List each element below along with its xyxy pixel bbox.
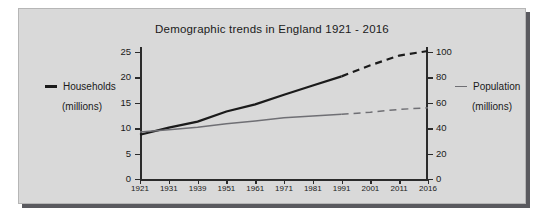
legend-population-label: Population	[473, 81, 520, 92]
y-tick-label-right: 0	[436, 173, 441, 184]
y-tick-right	[428, 103, 433, 104]
x-tick-label: 2001	[361, 184, 379, 193]
y-tick-label-right: 100	[436, 46, 452, 57]
x-tick-label: 1971	[275, 184, 293, 193]
y-tick-label-left: 10	[120, 122, 131, 133]
y-tick-label-right: 20	[436, 148, 447, 159]
y-tick-right	[428, 52, 433, 53]
households-line-dashed	[342, 51, 428, 76]
population-line-swatch-icon	[455, 86, 467, 88]
legend-population-units: (millions)	[472, 101, 546, 112]
y-tick-label-left: 15	[120, 97, 131, 108]
households-line-swatch-icon	[45, 85, 57, 87]
x-tick-label: 2011	[391, 184, 408, 193]
series-lines	[140, 52, 428, 179]
x-tick-label: 1991	[333, 184, 351, 193]
households-line-solid	[140, 76, 342, 134]
chart-panel: Demographic trends in England 1921 - 201…	[18, 8, 526, 204]
x-tick-label: 1961	[246, 184, 264, 193]
x-tick-label: 1939	[189, 184, 207, 193]
legend-population: Population (millions)	[455, 81, 546, 112]
population-line-solid	[140, 114, 342, 132]
legend-households-label: Households	[63, 81, 116, 92]
population-line-dashed	[342, 108, 428, 114]
x-tick-label: 1931	[160, 184, 178, 193]
chart-figure: Demographic trends in England 1921 - 201…	[0, 0, 546, 220]
chart-title: Demographic trends in England 1921 - 201…	[19, 23, 525, 35]
y-tick-right	[428, 154, 433, 155]
x-tick-label: 1981	[304, 184, 322, 193]
y-tick-label-left: 0	[126, 173, 131, 184]
y-tick-right	[428, 77, 433, 78]
plot-area: 0510152025020406080100192119311939195119…	[140, 52, 428, 179]
x-tick-label: 1921	[131, 184, 149, 193]
x-tick-label: 1951	[217, 184, 235, 193]
y-tick-right	[428, 128, 433, 129]
y-tick-label-left: 5	[126, 148, 131, 159]
y-tick-label-right: 60	[436, 97, 447, 108]
y-tick-label-left: 25	[120, 46, 131, 57]
x-tick-label: 2016	[419, 184, 437, 193]
y-tick-label-right: 40	[436, 122, 447, 133]
y-tick-label-right: 80	[436, 71, 447, 82]
y-tick-label-left: 20	[120, 71, 131, 82]
